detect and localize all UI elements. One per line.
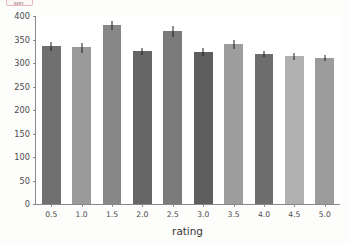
- error-bar: [142, 48, 143, 56]
- x-axis-tick: [112, 204, 113, 208]
- x-axis-tick: [325, 204, 326, 208]
- y-axis-tick-label: 350: [14, 35, 30, 45]
- y-axis-tick: [33, 181, 37, 182]
- x-axis-tick: [264, 204, 265, 208]
- y-axis-tick: [33, 40, 37, 41]
- error-bar: [112, 21, 113, 30]
- bar: [255, 54, 274, 204]
- y-axis-tick-label: 100: [14, 152, 30, 162]
- bar: [315, 58, 334, 204]
- y-axis-tick: [33, 157, 37, 158]
- x-axis-tick: [203, 204, 204, 208]
- y-axis-tick-label: 400: [14, 11, 30, 21]
- error-bar: [324, 55, 325, 61]
- x-axis-tick: [51, 204, 52, 208]
- x-axis-tick-label: 1.0: [76, 210, 88, 219]
- error-bar: [233, 40, 234, 49]
- corner-badge: MPL: [6, 0, 33, 6]
- bar: [72, 47, 91, 203]
- x-axis-tick-label: 3.0: [197, 210, 209, 219]
- x-axis-tick-label: 3.5: [228, 210, 240, 219]
- bar: [42, 46, 61, 203]
- x-axis-tick-label: 4.5: [288, 210, 300, 219]
- x-axis-tick: [173, 204, 174, 208]
- error-bar: [172, 26, 173, 36]
- error-bar: [203, 48, 204, 56]
- y-axis-tick-label: 50: [20, 176, 30, 186]
- error-bar: [294, 53, 295, 60]
- x-axis-tick-label: 1.5: [106, 210, 118, 219]
- y-axis-tick-label: 250: [14, 82, 30, 92]
- plot-area: 050100150200250300350400 0.51.01.52.02.5…: [35, 16, 340, 205]
- y-axis-tick: [33, 63, 37, 64]
- x-axis-tick: [294, 204, 295, 208]
- y-axis-tick-label: 0: [25, 199, 30, 209]
- x-axis-tick-label: 5.0: [319, 210, 331, 219]
- y-axis-tick-label: 200: [14, 105, 30, 115]
- x-axis-tick-label: 0.5: [45, 210, 57, 219]
- bar: [103, 25, 122, 204]
- y-axis-tick: [33, 110, 37, 111]
- x-axis-tick-label: 4.0: [258, 210, 270, 219]
- x-axis-tick: [142, 204, 143, 208]
- bar: [285, 56, 304, 204]
- error-bar: [51, 42, 52, 50]
- corner-badge-label: MPL: [7, 0, 32, 6]
- error-bar: [264, 51, 265, 58]
- y-axis-tick: [33, 134, 37, 135]
- error-bar: [81, 43, 82, 53]
- x-axis-tick-label: 2.0: [136, 210, 148, 219]
- y-axis-tick: [33, 16, 37, 17]
- bar: [224, 44, 243, 203]
- x-axis-title: rating: [35, 225, 340, 237]
- y-axis-tick: [33, 87, 37, 88]
- bar: [194, 52, 213, 204]
- x-axis-tick: [234, 204, 235, 208]
- y-axis-tick-label: 300: [14, 58, 30, 68]
- bar: [133, 51, 152, 203]
- y-axis-tick: [33, 204, 37, 205]
- figure-canvas: MPL 050100150200250300350400 0.51.01.52.…: [0, 0, 350, 245]
- bar: [163, 31, 182, 203]
- y-axis-tick-label: 150: [14, 129, 30, 139]
- x-axis-tick: [82, 204, 83, 208]
- x-axis-tick-label: 2.5: [167, 210, 179, 219]
